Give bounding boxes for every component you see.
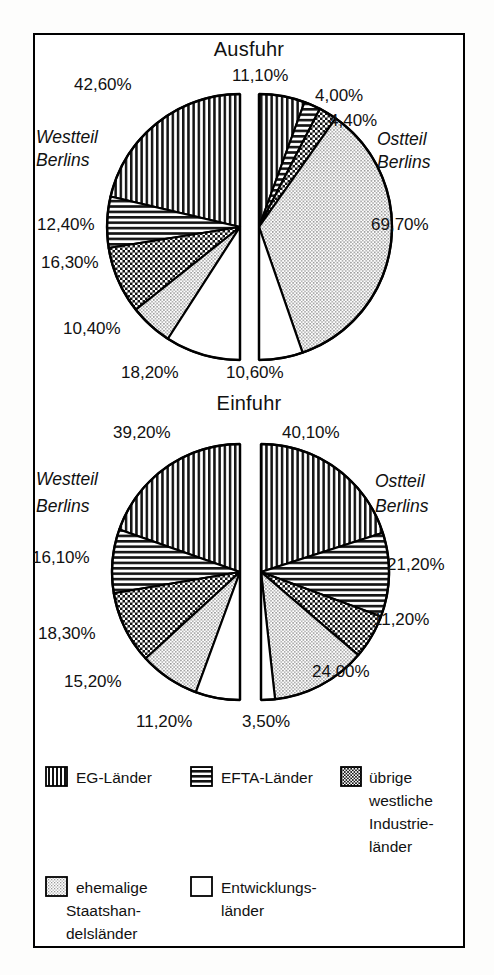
- figure-frame: [33, 33, 465, 948]
- page-canvas: Ausfuhr Westteil Berlins Ostteil Berlins…: [0, 0, 494, 975]
